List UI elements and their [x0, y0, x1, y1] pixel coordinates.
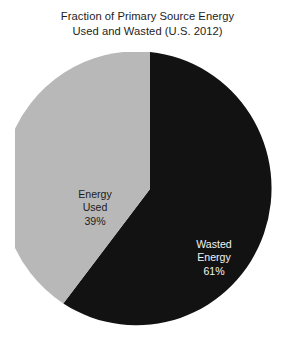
pie-chart-figure: Fraction of Primary Source Energy Used a… — [0, 0, 295, 339]
chart-title: Fraction of Primary Source Energy Used a… — [0, 9, 295, 39]
chart-title-line-1: Fraction of Primary Source Energy — [0, 9, 295, 24]
pie-label-wasted-energy: Wasted Energy 61% — [172, 238, 256, 278]
pie-label-energy-used-line-1: Energy — [59, 188, 131, 201]
pie-svg — [15, 52, 285, 326]
pie-label-wasted-energy-line-1: Wasted — [172, 238, 256, 251]
pie-label-energy-used: Energy Used 39% — [59, 188, 131, 228]
chart-title-line-2: Used and Wasted (U.S. 2012) — [0, 24, 295, 39]
pie-label-energy-used-value: 39% — [59, 215, 131, 228]
pie-label-energy-used-line-2: Used — [59, 201, 131, 214]
pie-label-wasted-energy-value: 61% — [172, 265, 256, 278]
pie-plot-area: Energy Used 39% Wasted Energy 61% — [15, 52, 285, 326]
pie-label-wasted-energy-line-2: Energy — [172, 251, 256, 264]
